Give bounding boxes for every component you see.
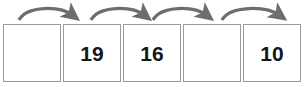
box-value-5: 10 xyxy=(260,43,283,64)
number-box-row: 19 16 10 xyxy=(3,24,303,84)
number-box-5[interactable]: 10 xyxy=(243,24,301,82)
box-value-2: 19 xyxy=(80,43,103,64)
arrow-3-icon xyxy=(153,8,207,20)
box-value-3: 16 xyxy=(140,43,163,64)
number-sequence-worksheet: 19 16 10 xyxy=(0,0,306,87)
arrow-4-icon xyxy=(222,8,280,20)
number-box-3[interactable]: 16 xyxy=(123,24,181,82)
number-box-1[interactable] xyxy=(3,24,61,82)
arrow-1-icon xyxy=(19,8,73,20)
number-box-2[interactable]: 19 xyxy=(63,24,121,82)
number-box-4[interactable] xyxy=(183,24,241,82)
arrow-2-icon xyxy=(91,8,145,20)
